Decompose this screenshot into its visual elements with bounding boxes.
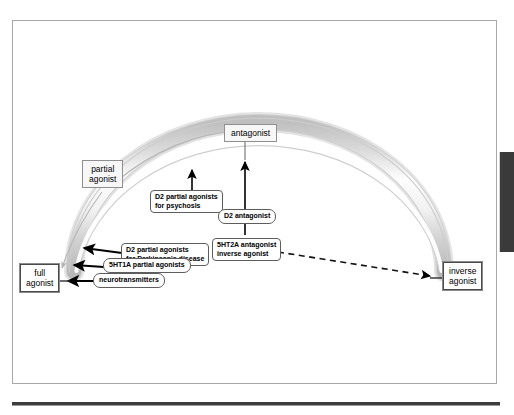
callout-neurotransmitters[interactable]: neurotransmitters [93, 273, 165, 288]
callout-d2-antagonist[interactable]: D2 antagonist [218, 209, 276, 224]
node-inverse-agonist-label-line2: agonist [449, 276, 476, 286]
node-inverse-agonist[interactable]: inverse agonist [443, 262, 482, 290]
callout-5ht2a-antagonist-inverse-agonist[interactable]: 5HT2A antagonist inverse agonist [212, 238, 281, 261]
callout-d2-partial-agonists-psychosis-line1: D2 partial agonists [155, 193, 218, 202]
callout-5ht2a-line2: inverse agonist [217, 250, 276, 259]
node-partial-agonist[interactable]: partial agonist [82, 160, 123, 188]
callout-d2-antagonist-label: D2 antagonist [224, 212, 270, 221]
node-full-agonist-label-line1: full [26, 268, 53, 278]
node-antagonist-label: antagonist [231, 128, 270, 138]
callout-5ht1a-partial-agonists[interactable]: 5HT1A partial agonists [103, 258, 191, 273]
callout-d2-partial-agonists-psychosis[interactable]: D2 partial agonists for psychosis [150, 190, 223, 213]
node-inverse-agonist-label-line1: inverse [449, 266, 476, 276]
callout-5ht2a-line1: 5HT2A antagonist [217, 241, 276, 250]
agonist-spectrum-diagram [12, 20, 497, 384]
node-partial-agonist-label-line1: partial [89, 164, 116, 174]
node-full-agonist-label-line2: agonist [26, 278, 53, 288]
figure-page: antagonist partial agonist full agonist … [0, 0, 514, 415]
arrow-d2-partial-parkinsons [84, 248, 122, 253]
node-antagonist[interactable]: antagonist [224, 124, 277, 142]
node-full-agonist[interactable]: full agonist [20, 264, 59, 292]
page-bottom-rule [12, 402, 500, 406]
callout-d2-partial-agonists-parkinsons-line1: D2 partial agonists [126, 246, 204, 255]
node-partial-agonist-label-line2: agonist [89, 174, 116, 184]
page-thumb-index-tab [500, 152, 514, 252]
callout-5ht1a-partial-agonists-label: 5HT1A partial agonists [109, 261, 185, 270]
callout-neurotransmitters-label: neurotransmitters [99, 276, 159, 285]
callout-d2-partial-agonists-psychosis-line2: for psychosis [155, 202, 218, 211]
dashed-arrow-to-inverse-agonist [278, 252, 430, 276]
